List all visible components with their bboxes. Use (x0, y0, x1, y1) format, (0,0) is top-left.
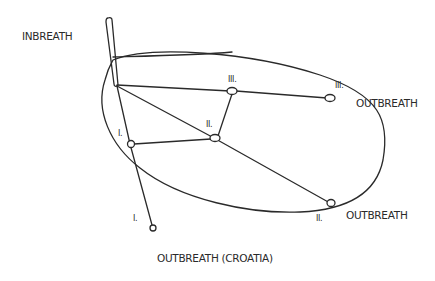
label-inbreath: INBREATH (22, 30, 72, 42)
breath-ellipse (102, 52, 385, 212)
numeral-end-ii: II. (316, 214, 322, 223)
label-outbreath-iii: OUTBREATH (356, 97, 417, 109)
inbreath-pillar (106, 18, 118, 87)
line-iii-to-ii (218, 94, 232, 136)
line-base-to-croatia (117, 86, 152, 225)
node-ii-inner (210, 135, 220, 142)
node-ii-outer (327, 200, 335, 207)
label-outbreath-croatia: OUTBREATH (CROATIA) (157, 252, 273, 264)
line-i-to-ii (134, 139, 211, 144)
numeral-end-i: I. (133, 214, 137, 223)
line-iii-to-outer (236, 91, 327, 98)
numeral-node-ii: II. (206, 120, 212, 129)
node-croatia (150, 225, 156, 231)
numeral-node-iii: III. (228, 75, 236, 84)
numeral-end-iii: III. (335, 81, 343, 90)
line-base-to-ii-outer (117, 86, 330, 203)
node-iii-outer (325, 95, 335, 102)
hand-drawn-diagram: INBREATH OUTBREATH OUTBREATH OUTBREATH (… (0, 0, 435, 281)
numeral-node-i: I. (118, 129, 122, 138)
line-base-to-iii (117, 85, 230, 91)
diagram-canvas: INBREATH OUTBREATH OUTBREATH OUTBREATH (… (0, 0, 435, 281)
node-iii-inner (227, 88, 237, 95)
node-i (128, 141, 135, 148)
label-outbreath-ii: OUTBREATH (346, 209, 407, 221)
